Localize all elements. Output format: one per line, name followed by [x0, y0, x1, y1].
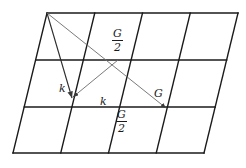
label-k-left: k — [59, 83, 66, 94]
grid-line-slant-3 — [156, 13, 190, 153]
grid-line-slant-4 — [204, 13, 238, 153]
lattice-figure: G 2 G 2 k k G — [0, 0, 246, 168]
label-g-over-2-top-numerator: G — [112, 28, 123, 40]
label-g-over-2-top: G 2 — [112, 28, 123, 53]
label-g-over-2-top-denominator: 2 — [112, 41, 123, 53]
label-g-over-2-bottom-denominator: 2 — [116, 122, 127, 134]
lattice-diagram — [0, 0, 246, 168]
label-g: G — [154, 88, 163, 99]
label-k-right: k — [100, 96, 107, 107]
vector-k-right — [73, 60, 118, 97]
grid-line-slant-0 — [13, 13, 47, 153]
label-g-over-2-bottom-numerator: G — [116, 109, 127, 121]
label-g-over-2-bottom: G 2 — [116, 109, 127, 134]
